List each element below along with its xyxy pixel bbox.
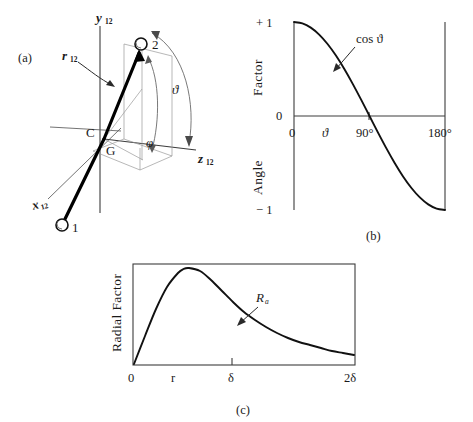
panel-b-ytick-bottom: − 1	[256, 203, 272, 217]
panel-b-ytick-mid: 0	[276, 109, 282, 123]
atom-2-label: 2	[152, 37, 159, 52]
axis-z12-label: z 12	[197, 151, 214, 167]
axis-x12-label: x 12	[29, 194, 49, 214]
panel-b-x-var-label: ϑ	[322, 126, 329, 140]
panel-c-curve-label-sub: a	[265, 297, 269, 306]
figure-root: (a) y 12 z 12 x 12 r 12 C G 1 2 ϑ φ	[0, 0, 473, 422]
panel-b-curve-label: cos ϑ	[356, 31, 384, 46]
vector-r12-label-text: r	[62, 48, 68, 63]
panel-b-annotation-leader	[336, 47, 355, 69]
axis-x12-label-sub: 12	[40, 201, 50, 212]
panel-b-y-title-upper: Factor	[250, 59, 265, 96]
panel-b-ytick-top: + 1	[256, 16, 272, 30]
axis-y12-label: y 12	[94, 10, 113, 26]
atom-1-label: 1	[72, 220, 79, 235]
panel-b-chart: Factor Angle + 1 0 − 1 0 ϑ 90° 180° cos …	[232, 0, 473, 250]
panel-b-tag: (b)	[366, 229, 381, 243]
vector-r12-label: r 12	[62, 48, 78, 64]
panel-b-xtick-0: 0	[289, 126, 295, 140]
panel-c-frame	[133, 264, 355, 365]
axis-z12-label-text: z	[197, 151, 204, 166]
axis-y12-label-text: y	[94, 10, 102, 25]
r12-leader-line	[78, 62, 112, 85]
panel-b-xtick-90: 90°	[356, 126, 374, 140]
panel-c-curve-label: R a	[255, 290, 269, 306]
panel-c-radial-curve	[134, 268, 354, 364]
projection-top-edge	[124, 44, 172, 56]
panel-c-xtick-r: r	[171, 371, 176, 385]
panel-c-chart: Radial Factor 0 r δ 2δ R a (c)	[95, 252, 385, 422]
panel-c-tag: (c)	[236, 403, 250, 417]
point-c-label: C	[86, 125, 95, 140]
panel-c-xtick-2delta: 2δ	[344, 371, 356, 385]
panel-b-y-title-lower: Angle	[250, 160, 265, 195]
bond-to-atom1	[65, 139, 104, 219]
axis-y12-label-sub: 12	[105, 17, 113, 26]
panel-c-curve-label-text: R	[255, 290, 264, 305]
axis-z12-label-sub: 12	[206, 158, 214, 167]
point-g-label: G	[106, 143, 115, 158]
r12-leader-arrowhead	[106, 80, 115, 87]
axis-x12-line	[48, 128, 121, 199]
axis-x12-label-text: x	[29, 196, 40, 212]
angle-theta-label: ϑ	[172, 82, 179, 97]
angle-theta-arrow-end	[185, 136, 193, 147]
angle-phi-label: φ	[146, 135, 153, 150]
vector-r12-label-sub: 12	[70, 55, 78, 64]
panel-a-diagram: (a) y 12 z 12 x 12 r 12 C G 1 2 ϑ φ	[0, 0, 240, 250]
vector-r12	[104, 53, 139, 139]
panel-c-xtick-delta: δ	[228, 371, 234, 385]
panel-c-y-title: Radial Factor	[109, 274, 124, 352]
panel-b-xtick-180: 180°	[428, 126, 452, 140]
vector-r12-arrowhead	[134, 49, 145, 62]
panel-c-xtick-0: 0	[128, 371, 134, 385]
panel-a-tag: (a)	[18, 51, 32, 65]
